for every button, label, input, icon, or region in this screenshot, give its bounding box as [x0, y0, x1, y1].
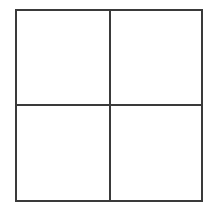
two-by-two-grid — [15, 9, 203, 202]
cell-bottom-right — [111, 106, 201, 200]
cell-bottom-left — [17, 106, 109, 200]
cell-top-right — [111, 11, 201, 104]
horizontal-divider — [17, 104, 201, 106]
cell-top-left — [17, 11, 109, 104]
